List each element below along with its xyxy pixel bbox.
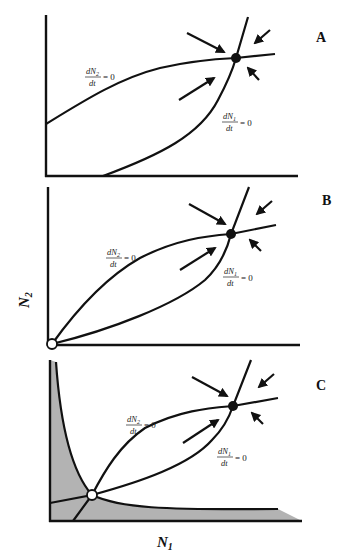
panel-c: C dN2 dt = 0 dN1 dt = 0 N1 (49, 360, 326, 552)
panel-a: A dN2 dt = 0 dN1 dt = 0 (45, 15, 327, 177)
panel-b-n1-nullcline (52, 187, 249, 344)
panel-b-stable-equilibrium (226, 229, 236, 239)
panel-b-n2-nullcline (52, 225, 276, 344)
panel-b-n2-nullcline-label: dN2 dt = 0 (106, 247, 136, 269)
panel-c-stable-equilibrium (228, 401, 238, 411)
svg-text:dt: dt (110, 259, 117, 269)
panel-b-n1-nullcline-label: dN1 dt = 0 (223, 266, 253, 288)
svg-text:dN1: dN1 (218, 446, 231, 457)
svg-text:dt: dt (226, 123, 233, 133)
panel-b-arrow-lower-left (180, 248, 215, 270)
panel-b-arrow-lower-right (250, 240, 261, 251)
svg-text:dt: dt (89, 78, 96, 88)
panel-a-arrow-upper-left (187, 33, 224, 52)
svg-text:dt: dt (221, 458, 228, 468)
panel-c-label: C (316, 378, 326, 393)
panel-a-stable-equilibrium (231, 53, 241, 63)
panel-b-unstable-equilibrium (47, 339, 57, 349)
panel-a-arrow-lower-left (179, 78, 214, 100)
panel-a-n1-nullcline-label: dN1 dt = 0 (222, 111, 252, 133)
panel-c-separatrix (56, 362, 278, 509)
svg-text:= 0: = 0 (103, 72, 115, 82)
panel-a-arrow-lower-right (248, 68, 259, 80)
panel-c-n1-nullcline (73, 360, 251, 521)
svg-text:= 0: = 0 (235, 453, 247, 463)
panel-b-arrow-upper-left (189, 204, 225, 224)
svg-text:dN1: dN1 (223, 111, 236, 122)
panel-c-arrow-upper-left (192, 377, 227, 396)
panel-a-n1-nullcline (103, 17, 248, 176)
panel-b-arrow-upper-right (257, 201, 272, 214)
svg-text:= 0: = 0 (144, 420, 156, 430)
svg-text:= 0: = 0 (241, 273, 253, 283)
panel-c-arrow-upper-right (259, 374, 274, 387)
svg-text:dN2: dN2 (107, 247, 120, 258)
panel-c-unstable-equilibrium (87, 490, 97, 500)
svg-text:dN1: dN1 (224, 266, 237, 277)
svg-text:dN2: dN2 (86, 66, 99, 77)
svg-text:N2: N2 (16, 292, 34, 309)
svg-text:= 0: = 0 (240, 118, 252, 128)
panel-a-arrow-upper-right (255, 30, 270, 43)
panel-a-n2-nullcline-label: dN2 dt = 0 (85, 66, 115, 88)
panel-b-label: B (322, 193, 331, 208)
svg-text:dt: dt (227, 278, 234, 288)
panel-c-n2-nullcline-label: dN2 dt = 0 (126, 414, 156, 436)
panel-a-label: A (316, 30, 327, 45)
svg-text:= 0: = 0 (124, 253, 136, 263)
y-axis-label: N2 (16, 292, 34, 309)
svg-text:dN2: dN2 (127, 414, 140, 425)
phase-plane-figure: A dN2 dt = 0 dN1 dt = 0 B dN2 (0, 0, 345, 559)
panel-c-arrow-lower-right (252, 413, 263, 424)
panel-c-n1-nullcline-label: dN1 dt = 0 (217, 446, 247, 468)
x-axis-label: N1 (156, 534, 173, 552)
svg-text:dt: dt (130, 426, 137, 436)
panel-b: B dN2 dt = 0 dN1 dt = 0 N2 (16, 187, 331, 349)
panel-a-n2-nullcline (46, 54, 275, 124)
